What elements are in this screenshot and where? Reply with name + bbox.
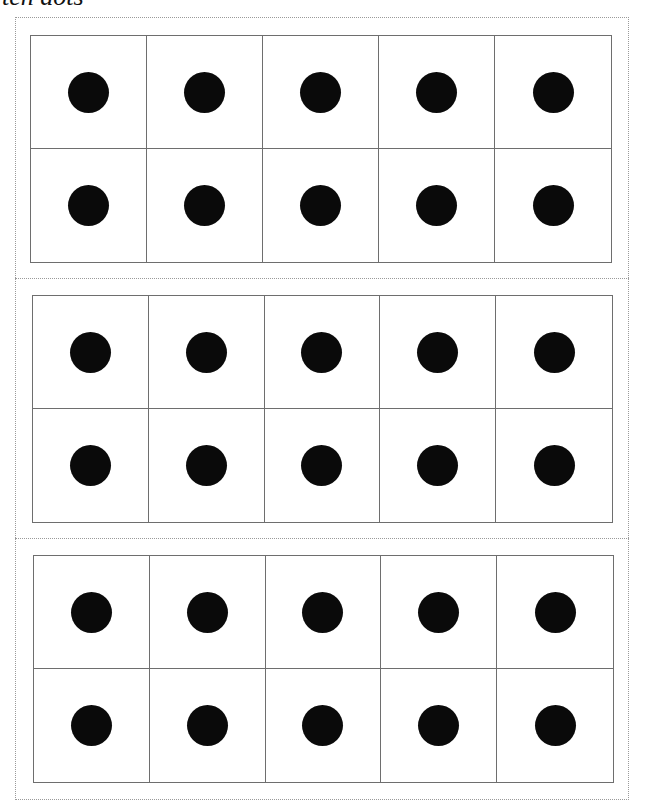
- ten-frame-cell: [34, 669, 150, 782]
- ten-frame-cell: [263, 149, 379, 262]
- dot-icon: [533, 72, 574, 113]
- ten-frame-cell: [497, 556, 613, 669]
- dot-icon: [418, 592, 459, 633]
- dot-icon: [418, 705, 459, 746]
- dot-icon: [302, 592, 343, 633]
- dot-icon: [300, 185, 341, 226]
- ten-frame-cell: [495, 36, 611, 149]
- ten-frame-cell: [380, 409, 496, 522]
- dot-icon: [184, 185, 225, 226]
- ten-frame-cell: [34, 556, 150, 669]
- dot-icon: [301, 445, 342, 486]
- dot-icon: [535, 705, 576, 746]
- ten-frame-cell: [149, 296, 265, 409]
- dot-icon: [70, 332, 111, 373]
- dot-icon: [184, 72, 225, 113]
- ten-frame-cell: [266, 556, 382, 669]
- dot-icon: [416, 185, 457, 226]
- dotted-cut-line: [15, 538, 629, 539]
- ten-frame-cell: [147, 36, 263, 149]
- ten-frame: [32, 295, 613, 523]
- ten-frame-cell: [31, 149, 147, 262]
- dot-icon: [70, 445, 111, 486]
- dot-icon: [533, 185, 574, 226]
- dot-icon: [186, 445, 227, 486]
- ten-frame-cell: [495, 149, 611, 262]
- ten-frame-cell: [379, 36, 495, 149]
- dot-icon: [186, 332, 227, 373]
- dot-icon: [534, 332, 575, 373]
- dot-icon: [301, 332, 342, 373]
- ten-frame-cell: [150, 669, 266, 782]
- ten-frame-cell: [266, 669, 382, 782]
- ten-frame: [30, 35, 612, 263]
- ten-frame-cell: [265, 296, 381, 409]
- dot-icon: [534, 445, 575, 486]
- ten-frame-cell: [31, 36, 147, 149]
- ten-frame-cell: [380, 296, 496, 409]
- ten-frame-cell: [381, 556, 497, 669]
- dot-icon: [187, 592, 228, 633]
- dot-icon: [187, 705, 228, 746]
- ten-frame-cell: [33, 409, 149, 522]
- dot-icon: [302, 705, 343, 746]
- dot-icon: [300, 72, 341, 113]
- ten-frame-cell: [263, 36, 379, 149]
- dot-icon: [68, 185, 109, 226]
- ten-frame-cell: [150, 556, 266, 669]
- ten-frame-cell: [265, 409, 381, 522]
- ten-frame-cell: [496, 409, 612, 522]
- dot-icon: [417, 445, 458, 486]
- dot-icon: [68, 72, 109, 113]
- dot-icon: [535, 592, 576, 633]
- ten-frame-cell: [379, 149, 495, 262]
- caption-text: ten dots: [2, 0, 84, 12]
- dot-icon: [71, 592, 112, 633]
- dotted-cut-line: [15, 278, 629, 279]
- dot-icon: [417, 332, 458, 373]
- ten-frame-cell: [147, 149, 263, 262]
- ten-frame-cell: [497, 669, 613, 782]
- dot-icon: [71, 705, 112, 746]
- ten-frame-cell: [496, 296, 612, 409]
- ten-frame-cell: [381, 669, 497, 782]
- ten-frame: [33, 555, 614, 783]
- ten-frame-cell: [33, 296, 149, 409]
- dot-icon: [416, 72, 457, 113]
- ten-frame-cell: [149, 409, 265, 522]
